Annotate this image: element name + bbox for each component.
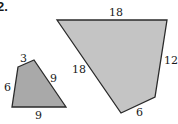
large-bottom-side-label: 6 [136,106,143,119]
large-right-side-label: 12 [164,54,178,67]
small-bottom-side-label: 9 [35,109,42,122]
similar-figures-diagram: 3 6 9 9 18 18 12 6 [0,0,178,124]
large-left-side-label: 18 [72,63,86,76]
small-left-side-label: 6 [4,81,11,94]
large-top-side-label: 18 [109,6,123,19]
small-right-side-label: 9 [50,72,57,85]
large-quadrilateral: 18 18 12 6 [57,6,178,119]
small-top-side-label: 3 [20,52,27,65]
small-quadrilateral: 3 6 9 9 [4,52,66,122]
small-quadrilateral-shape [12,60,66,107]
